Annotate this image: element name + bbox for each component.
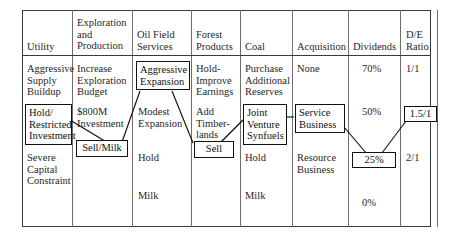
option-de-ratio-1-1[interactable]: 1/1	[406, 63, 419, 75]
option-acquisition-none[interactable]: None	[297, 63, 320, 75]
option-hold-improve-earnings[interactable]: Hold- Improve Earnings	[196, 63, 233, 98]
option-joint-venture-synfuels[interactable]: Joint Venture Synfuels	[243, 104, 287, 145]
option-severe-capital-constraint[interactable]: Severe Capital Constraint	[27, 152, 71, 187]
column-header-oilfield: Oil Field Services	[137, 29, 175, 52]
column-divider-7	[400, 10, 401, 227]
option-aggressive-supply-buildup[interactable]: Aggressive Supply Buildup	[27, 63, 74, 98]
column-divider-3	[191, 10, 192, 227]
option-de-ratio-2-1[interactable]: 2/1	[406, 152, 419, 164]
column-header-acquisition: Acquisition	[297, 41, 346, 53]
strategy-matrix-figure: Utility Exploration and Production Oil F…	[0, 0, 451, 237]
option-800m-investment[interactable]: $800M Investment	[77, 106, 124, 129]
column-divider-8	[437, 10, 438, 227]
option-coal-hold[interactable]: Hold	[245, 152, 266, 164]
option-add-timberlands[interactable]: Add Timber- lands	[196, 106, 230, 141]
header-rule	[22, 55, 431, 56]
option-oilfield-hold[interactable]: Hold	[138, 152, 159, 164]
option-service-business[interactable]: Service Business	[295, 104, 345, 133]
column-divider-1	[72, 10, 73, 227]
option-purchase-additional-reserves[interactable]: Purchase Additional Reserves	[245, 63, 290, 98]
option-sell[interactable]: Sell	[194, 141, 234, 158]
option-dividends-25[interactable]: 25%	[352, 152, 396, 168]
option-oilfield-milk[interactable]: Milk	[138, 190, 158, 202]
column-divider-5	[292, 10, 293, 227]
option-de-ratio-1-5-1[interactable]: 1.5/1	[404, 106, 437, 122]
column-divider-6	[348, 10, 349, 227]
column-divider-2	[132, 10, 133, 227]
option-resource-business[interactable]: Resource Business	[297, 152, 336, 175]
option-coal-milk[interactable]: Milk	[245, 190, 265, 202]
option-sell-milk[interactable]: Sell/Milk	[76, 140, 128, 157]
column-header-forest: Forest Products	[196, 29, 233, 52]
option-dividends-70[interactable]: 70%	[362, 63, 381, 75]
column-header-coal: Coal	[245, 41, 265, 53]
column-header-utility: Utility	[27, 41, 54, 53]
option-dividends-50[interactable]: 50%	[362, 106, 381, 118]
column-divider-4	[240, 10, 241, 227]
option-hold-restricted-investment[interactable]: Hold/ Restricted Investment	[25, 104, 72, 145]
column-header-exploration: Exploration and Production	[77, 17, 127, 52]
option-dividends-0[interactable]: 0%	[362, 197, 376, 209]
option-modest-expansion[interactable]: Modest Expansion	[138, 106, 182, 129]
column-header-dividends: Dividends	[353, 41, 396, 53]
column-header-de-ratio: D/E Ratio	[406, 29, 429, 52]
option-increase-exploration-budget[interactable]: Increase Exploration Budget	[77, 63, 127, 98]
option-aggressive-expansion[interactable]: Aggressive Expansion	[136, 61, 190, 90]
